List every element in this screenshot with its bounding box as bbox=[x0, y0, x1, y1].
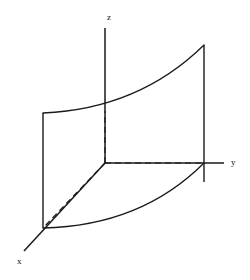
solid-edges-group bbox=[43, 45, 204, 228]
bottom-surface-curve-line bbox=[43, 163, 204, 228]
surface-curves-group bbox=[43, 45, 204, 228]
x-axis-line bbox=[24, 163, 105, 251]
diagonal-dashed-to-x-corner-line bbox=[43, 163, 105, 228]
hidden-edges-group bbox=[43, 111, 203, 228]
y-axis-label: y bbox=[231, 157, 236, 167]
axes-group bbox=[24, 28, 224, 251]
top-surface-curve-line bbox=[43, 45, 204, 113]
coordinate-surface-diagram: z y x bbox=[0, 0, 250, 280]
figure-container: z y x bbox=[0, 0, 250, 280]
x-axis-label: x bbox=[17, 256, 22, 266]
z-axis-label: z bbox=[107, 12, 111, 22]
